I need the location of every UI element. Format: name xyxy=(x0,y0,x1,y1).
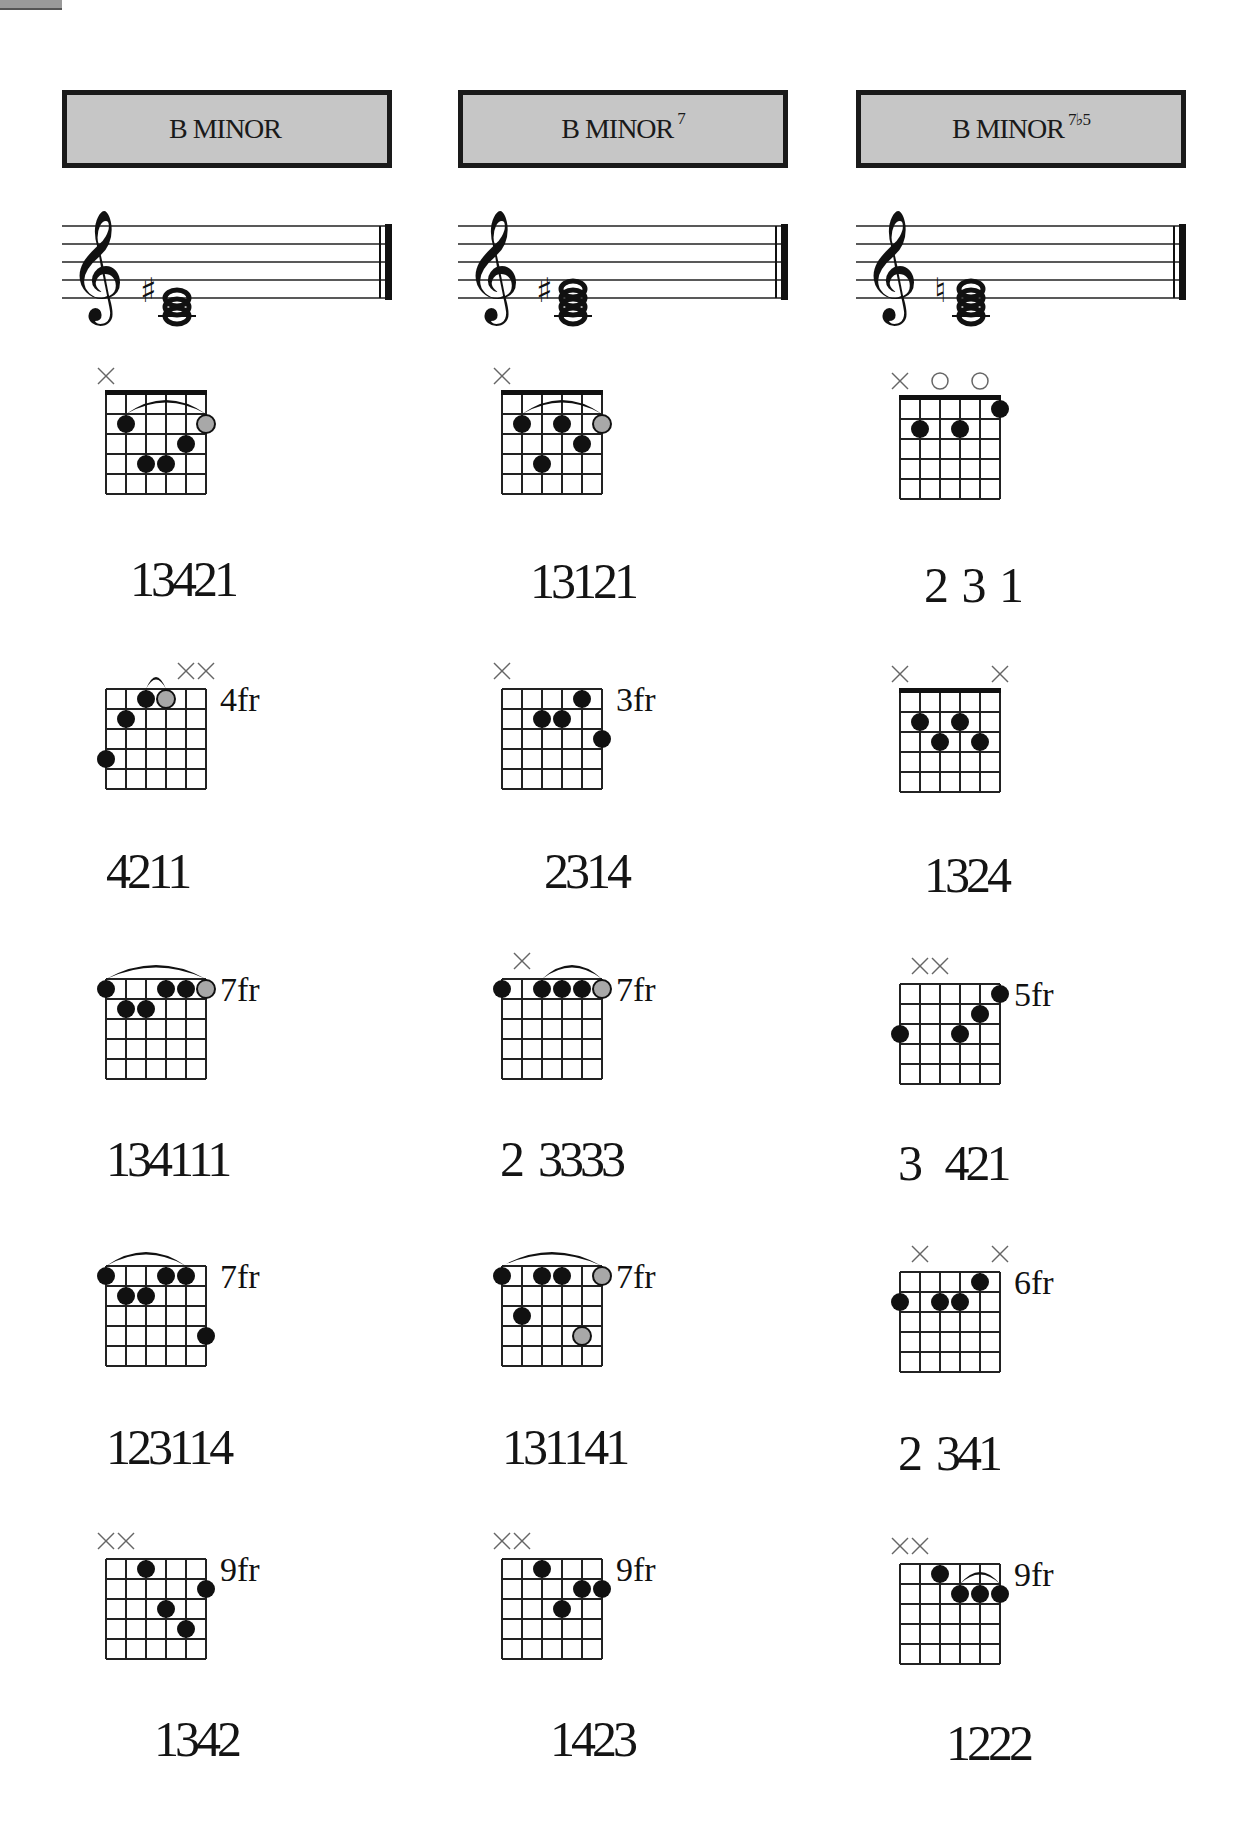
chord-grid-svg: 5fr xyxy=(856,940,1196,1140)
finger-dot-icon xyxy=(177,1620,195,1638)
muted-string-icon xyxy=(892,666,908,682)
finger-dot-icon xyxy=(931,1293,949,1311)
fingering-label: 134111 xyxy=(106,1130,228,1188)
finger-dot-icon xyxy=(177,1267,195,1285)
finger-dot-icon xyxy=(553,980,571,998)
chord-title: B MINOR7♭5 xyxy=(952,113,1090,145)
barre-arc-icon xyxy=(106,1252,186,1266)
fingering-label: 2 341 xyxy=(898,1424,999,1482)
chord-grid-svg: 7fr xyxy=(458,935,798,1135)
finger-dot-icon xyxy=(931,1565,949,1583)
chord-grid-svg: 3fr xyxy=(458,645,798,845)
chord-title: B MINOR7 xyxy=(561,113,685,145)
finger-dot-icon xyxy=(573,690,591,708)
chord-title-superscript: 7♭5 xyxy=(1068,110,1090,129)
fret-position-label: 9fr xyxy=(616,1551,656,1588)
finger-dot-icon xyxy=(931,733,949,751)
finger-dot-icon xyxy=(117,710,135,728)
muted-string-icon xyxy=(912,958,928,974)
fret-position-label: 4fr xyxy=(220,681,260,718)
chord-diagram: 9fr xyxy=(856,1520,1236,1780)
fret-position-label: 9fr xyxy=(220,1551,260,1588)
treble-clef-icon: 𝄞 xyxy=(464,209,521,326)
chord-grid-svg xyxy=(458,350,798,550)
finger-dot-icon xyxy=(991,1585,1009,1603)
fingering-label: 2314 xyxy=(544,842,628,900)
chord-column-b-minor-7: B MINOR7 𝄞♯ 13121 3fr 2314 7fr 2 3333 7f… xyxy=(458,0,838,1834)
finger-dot-icon xyxy=(97,980,115,998)
fret-position-label: 7fr xyxy=(220,971,260,1008)
finger-dot-icon xyxy=(911,420,929,438)
root-note-dot-icon xyxy=(573,1327,591,1345)
barre-arc-icon xyxy=(542,965,602,979)
finger-dot-icon xyxy=(513,1307,531,1325)
finger-dot-icon xyxy=(971,1585,989,1603)
muted-string-icon xyxy=(118,1533,134,1549)
finger-dot-icon xyxy=(951,1585,969,1603)
sharp-icon: ♯ xyxy=(140,270,156,310)
chord-title: B MINOR xyxy=(169,113,285,145)
finger-dot-icon xyxy=(553,710,571,728)
chord-title-main: B MINOR xyxy=(169,113,281,144)
muted-string-icon xyxy=(494,368,510,384)
music-staff: 𝄞♯ xyxy=(458,190,798,344)
finger-dot-icon xyxy=(177,980,195,998)
finger-dot-icon xyxy=(513,415,531,433)
finger-dot-icon xyxy=(157,980,175,998)
chord-title-main: B MINOR xyxy=(561,113,673,144)
muted-string-icon xyxy=(494,663,510,679)
finger-dot-icon xyxy=(137,1000,155,1018)
finger-dot-icon xyxy=(991,985,1009,1003)
fingering-label: 123114 xyxy=(106,1418,230,1476)
staff-svg: 𝄞♯ xyxy=(458,190,798,340)
music-staff: 𝄞♮ xyxy=(856,190,1196,344)
finger-dot-icon xyxy=(137,455,155,473)
root-note-dot-icon xyxy=(593,980,611,998)
fret-position-label: 9fr xyxy=(1014,1556,1054,1593)
staff-svg: 𝄞♯ xyxy=(62,190,402,340)
muted-string-icon xyxy=(892,373,908,389)
finger-dot-icon xyxy=(137,1560,155,1578)
root-note-dot-icon xyxy=(157,690,175,708)
root-note-dot-icon xyxy=(197,415,215,433)
fret-position-label: 6fr xyxy=(1014,1264,1054,1301)
muted-string-icon xyxy=(912,1538,928,1554)
finger-dot-icon xyxy=(553,1267,571,1285)
chord-grid-svg: 9fr xyxy=(62,1515,402,1715)
fingering-label: 13421 xyxy=(130,550,235,608)
finger-dot-icon xyxy=(533,980,551,998)
chord-grid-svg xyxy=(856,355,1196,555)
fret-position-label: 5fr xyxy=(1014,976,1054,1013)
chord-grid-svg xyxy=(62,350,402,550)
chord-grid-svg: 7fr xyxy=(62,935,402,1135)
finger-dot-icon xyxy=(533,1560,551,1578)
finger-dot-icon xyxy=(951,1293,969,1311)
muted-string-icon xyxy=(932,958,948,974)
fingering-label: 4211 xyxy=(106,842,188,900)
finger-dot-icon xyxy=(177,435,195,453)
muted-string-icon xyxy=(992,666,1008,682)
finger-dot-icon xyxy=(573,980,591,998)
finger-dot-icon xyxy=(137,690,155,708)
open-string-icon xyxy=(932,373,948,389)
finger-dot-icon xyxy=(493,980,511,998)
chord-title-box: B MINOR7 xyxy=(458,90,788,168)
chord-grid-svg: 6fr xyxy=(856,1228,1196,1428)
muted-string-icon xyxy=(912,1246,928,1262)
chord-diagram xyxy=(62,350,442,610)
treble-clef-icon: 𝄞 xyxy=(862,209,919,326)
chord-grid-svg xyxy=(856,648,1196,848)
muted-string-icon xyxy=(98,368,114,384)
finger-dot-icon xyxy=(137,1287,155,1305)
finger-dot-icon xyxy=(553,1600,571,1618)
page-corner-tab xyxy=(0,0,62,10)
fret-position-label: 3fr xyxy=(616,681,656,718)
chord-diagram xyxy=(458,350,838,610)
natural-icon: ♮ xyxy=(934,270,946,310)
finger-dot-icon xyxy=(117,1000,135,1018)
chord-grid-svg: 9fr xyxy=(458,1515,798,1715)
chord-column-b-minor: B MINOR 𝄞♯ 13421 4fr 4211 7fr 134111 7fr… xyxy=(62,0,442,1834)
chord-title-main: B MINOR xyxy=(952,113,1064,144)
finger-dot-icon xyxy=(197,1580,215,1598)
root-note-dot-icon xyxy=(593,415,611,433)
